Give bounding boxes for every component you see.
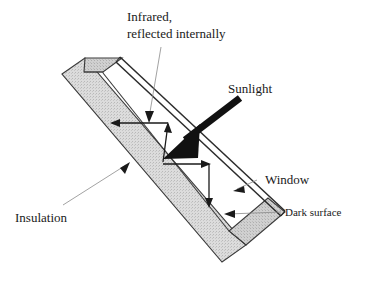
figure-root: Infrared, reflected internally Sunlight … (0, 0, 369, 290)
dark-surface-edge (103, 73, 229, 231)
leader-insulation (63, 165, 126, 205)
label-infrared-line1: Infrared, (127, 9, 172, 24)
label-dark-surface: Dark surface (285, 206, 342, 218)
collector-diagram: Infrared, reflected internally Sunlight … (0, 0, 369, 290)
label-insulation: Insulation (15, 210, 67, 225)
dark-surface-line (103, 73, 229, 231)
leader-infrared-arrowhead (145, 111, 154, 123)
leader-dark-surface-arrowhead (224, 210, 235, 218)
leader-insulation-arrowhead (120, 162, 130, 174)
label-sunlight: Sunlight (228, 81, 272, 96)
label-window: Window (265, 172, 310, 187)
insulation-top-cap (84, 58, 122, 72)
label-infrared-line2: reflected internally (127, 26, 226, 41)
leader-window (237, 180, 257, 189)
leader-window-arrowhead (233, 186, 245, 193)
